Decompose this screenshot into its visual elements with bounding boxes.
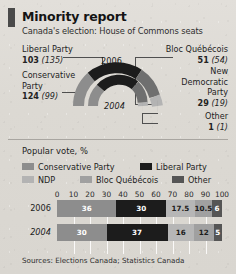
seat-label-ndp-2004: (19) (211, 98, 228, 108)
bar-row-label-2006: 2006 (30, 203, 51, 213)
seat-label-ndp-name-1: New (181, 66, 228, 77)
bar-row-2004: 2004303716125 (57, 224, 222, 241)
source-note: Sources: Elections Canada; Statistics Ca… (22, 256, 184, 265)
legend-label-ndp: NDP (38, 175, 55, 185)
page-subtitle: Canada's election: House of Commons seat… (22, 26, 203, 36)
seat-label-liberal-2006: 103 (22, 55, 39, 65)
bar-segment-2006-liberal-party: 30 (116, 200, 166, 217)
x-tick-70: 70 (168, 190, 177, 199)
seat-label-bloc-name: Bloc Québécois (166, 44, 228, 55)
bar-segment-2006-other: 6 (212, 200, 222, 217)
x-tick-80: 80 (184, 190, 193, 199)
section-divider (8, 139, 228, 140)
legend-row-2: NDP Bloc Québécois Other (22, 173, 228, 186)
seat-label-liberal: Liberal Party 103 (135) (22, 44, 73, 65)
seat-label-conservative-2006: 124 (22, 91, 39, 101)
bar-segment-2004-ndp: 16 (168, 224, 194, 241)
arc-2004-bloc (135, 85, 143, 102)
stacked-bar-chart: 2006363017.510.562004303716125 (57, 200, 222, 248)
arc-2004-conservative (93, 88, 101, 106)
legend-item-conservative: Conservative Party (22, 162, 140, 172)
seat-label-bloc: Bloc Québécois 51 (54) (166, 44, 228, 65)
bar-stack-2004: 303716125 (57, 224, 222, 241)
seat-label-conservative-name-2: Party (22, 81, 75, 92)
seat-label-ndp-name-2: Democratic (181, 77, 228, 88)
legend-item-other: Other (172, 175, 211, 185)
legend-swatch-liberal (140, 163, 152, 170)
bar-row-label-2004: 2004 (30, 227, 51, 237)
bar-segment-2006-bloc-qu-b-cois: 10.5 (195, 200, 212, 217)
popular-vote-title: Popular vote, % (22, 146, 88, 156)
seat-label-conservative: Conservative Party 124 (99) (22, 70, 75, 102)
x-tick-50: 50 (135, 190, 144, 199)
seat-label-liberal-2004: (135) (41, 55, 63, 65)
seat-label-liberal-name: Liberal Party (22, 44, 73, 55)
page-title: Minority report (22, 9, 126, 24)
legend-label-liberal: Liberal Party (156, 162, 207, 172)
leader-line-other-h1 (142, 113, 158, 114)
legend-item-ndp: NDP (22, 175, 80, 185)
bar-segment-2004-other: 5 (214, 224, 222, 241)
brand-tab-marker (8, 8, 15, 27)
seat-label-other-2006: 1 (208, 122, 214, 132)
leader-line-liberal-h (63, 57, 103, 58)
x-tick-60: 60 (151, 190, 160, 199)
x-tick-40: 40 (118, 190, 127, 199)
x-tick-90: 90 (201, 190, 210, 199)
arc-2006-ndp (155, 97, 158, 106)
infographic-page: Minority report Canada's election: House… (0, 0, 236, 274)
seat-label-conservative-name-1: Conservative (22, 70, 75, 81)
arc-2004-liberal (101, 80, 135, 88)
popular-vote-legend: Conservative Party Liberal Party NDP Blo… (22, 160, 228, 186)
seat-label-other-2004: (1) (217, 122, 228, 132)
bar-segment-2004-liberal-party: 37 (107, 224, 168, 241)
bar-stack-2006: 363017.510.56 (57, 200, 222, 217)
legend-swatch-bloc (80, 176, 92, 183)
leader-line-bloc-h (135, 57, 173, 58)
bar-segment-2006-conservative-party: 36 (57, 200, 116, 217)
x-tick-10: 10 (69, 190, 78, 199)
legend-label-conservative: Conservative Party (38, 162, 115, 172)
leader-line-other-h2 (142, 123, 158, 124)
bar-segment-2006-ndp: 17.5 (166, 200, 195, 217)
bar-segment-2004-conservative-party: 30 (57, 224, 107, 241)
ring-year-2004: 2004 (104, 101, 125, 111)
legend-label-bloc: Bloc Québécois (96, 175, 158, 185)
seat-label-ndp-2006: 29 (198, 98, 209, 108)
bar-segment-2004-bloc-qu-b-cois: 12 (194, 224, 214, 241)
legend-item-liberal: Liberal Party (140, 162, 207, 172)
legend-swatch-other (172, 176, 184, 183)
x-tick-30: 30 (102, 190, 111, 199)
seat-label-bloc-2004: (54) (211, 55, 228, 65)
seat-label-bloc-2006: 51 (198, 55, 209, 65)
bar-row-2006: 2006363017.510.56 (57, 200, 222, 217)
x-axis-ticks: 0102030405060708090100 (0, 190, 236, 200)
legend-row-1: Conservative Party Liberal Party (22, 160, 228, 173)
legend-item-bloc: Bloc Québécois (80, 175, 172, 185)
legend-swatch-conservative (22, 163, 34, 170)
x-tick-20: 20 (85, 190, 94, 199)
legend-swatch-ndp (22, 176, 34, 183)
x-tick-0: 0 (55, 190, 60, 199)
seat-label-ndp-name-3: Party (181, 87, 228, 98)
seat-label-conservative-2004: (99) (41, 91, 58, 101)
x-tick-100: 100 (215, 190, 229, 199)
seat-label-other-name: Other (205, 111, 228, 122)
seat-label-other: Other 1 (1) (205, 111, 228, 132)
seat-label-ndp: New Democratic Party 29 (19) (181, 66, 228, 108)
ring-year-2006: 2006 (101, 56, 122, 66)
legend-label-other: Other (188, 175, 211, 185)
